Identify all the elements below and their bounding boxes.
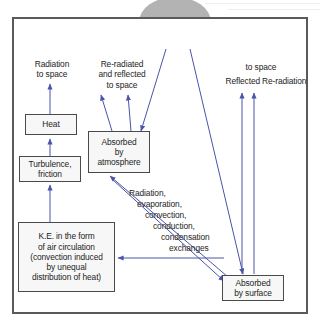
caption-radiation-to-space: Radiation to space <box>19 59 85 80</box>
diagram-screenshot: Solar energy <box>0 0 322 327</box>
caption-reflected: Reflected <box>205 76 260 86</box>
node-absorbed-by-atmosphere: Absorbed by atmosphere <box>88 131 150 173</box>
exchange-line: Radiation, <box>129 188 239 199</box>
exchange-line: condensation <box>129 232 239 243</box>
node-turbulence-friction: Turbulence, friction <box>19 156 81 182</box>
node-absorbed-by-atmosphere-label: Absorbed by atmosphere <box>95 137 142 168</box>
arrow-atmosphere-to-reradiated <box>101 95 112 131</box>
node-heat: Heat <box>25 114 77 135</box>
caption-exchange-processes: Radiation, evaporation, convection, cond… <box>129 188 239 254</box>
caption-re-radiated-and-reflected-to-space: Re-radiated and reflected to space <box>84 59 160 90</box>
arrow-atmosphere-to-reflected <box>128 95 131 131</box>
node-heat-label: Heat <box>40 119 61 129</box>
node-absorbed-by-surface: Absorbed by surface <box>222 275 284 301</box>
node-turbulence-friction-label: Turbulence, friction <box>27 159 74 179</box>
node-absorbed-by-surface-label: Absorbed by surface <box>232 278 274 298</box>
node-kinetic-energy-label: K.E. in the form of air circulation (con… <box>28 231 105 282</box>
exchange-line: conduction, <box>129 221 239 232</box>
caption-to-space: to space <box>219 62 303 72</box>
caption-re-radiation: Re-radiation <box>262 76 322 86</box>
exchange-line: convection, <box>129 210 239 221</box>
exchange-line: exchanges <box>129 243 239 254</box>
exchange-line: evaporation, <box>129 199 239 210</box>
node-kinetic-energy-air-circulation: K.E. in the form of air circulation (con… <box>18 222 115 292</box>
